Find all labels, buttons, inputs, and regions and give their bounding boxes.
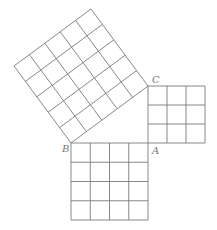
- label-b: B: [61, 143, 69, 154]
- square-4x4: [71, 143, 148, 220]
- label-c: C: [152, 74, 160, 85]
- square-5x5: [14, 9, 148, 143]
- square-3x3: [148, 86, 205, 143]
- pythagorean-diagram: C B A: [0, 0, 217, 230]
- label-a: A: [151, 145, 159, 156]
